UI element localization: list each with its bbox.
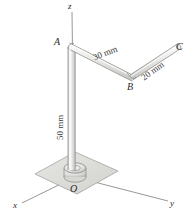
rod-OA-body	[68, 46, 75, 170]
axis-label-y: y	[170, 199, 174, 208]
axis-label-z: z	[68, 2, 72, 11]
point-label-o: O	[70, 184, 77, 194]
bent-rod-figure: A B C O x y z 30 mm 20 mm 50 mm	[0, 0, 194, 221]
dimension-label-oa: 50 mm	[56, 115, 65, 140]
point-label-a: A	[54, 37, 60, 47]
point-label-c: C	[176, 42, 183, 52]
figure-canvas	[0, 0, 194, 221]
rod-segment-OA	[68, 46, 75, 170]
point-label-b: B	[127, 82, 133, 92]
axis-label-x: x	[13, 201, 17, 210]
